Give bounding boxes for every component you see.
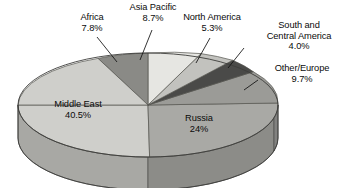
label-south-central-america-percent: 4.0% — [252, 41, 346, 52]
label-africa: Africa 7.8% — [63, 12, 121, 33]
label-north-america-percent: 5.3% — [175, 23, 249, 34]
label-south-central-america-line1: South and — [252, 20, 346, 31]
label-middle-east: Middle East 40.5% — [41, 99, 115, 120]
label-russia-percent: 24% — [172, 124, 226, 135]
label-north-america-name: North America — [175, 12, 249, 23]
label-south-central-america-line2: Central America — [252, 31, 346, 42]
label-other-europe-name: Other/Europe — [262, 63, 342, 74]
label-russia-name: Russia — [172, 113, 226, 124]
label-middle-east-name: Middle East — [41, 99, 115, 110]
label-africa-name: Africa — [63, 12, 121, 23]
label-north-america: North America 5.3% — [175, 12, 249, 33]
pie-chart-figure: Africa 7.8% Asia Pacific 8.7% North Amer… — [0, 0, 350, 188]
label-asia-pacific-name: Asia Pacific — [120, 2, 186, 13]
label-other-europe-percent: 9.7% — [262, 74, 342, 85]
label-africa-percent: 7.8% — [63, 23, 121, 34]
label-middle-east-percent: 40.5% — [41, 110, 115, 121]
label-russia: Russia 24% — [172, 113, 226, 134]
label-south-central-america: South and Central America 4.0% — [252, 20, 346, 52]
label-other-europe: Other/Europe 9.7% — [262, 63, 342, 84]
